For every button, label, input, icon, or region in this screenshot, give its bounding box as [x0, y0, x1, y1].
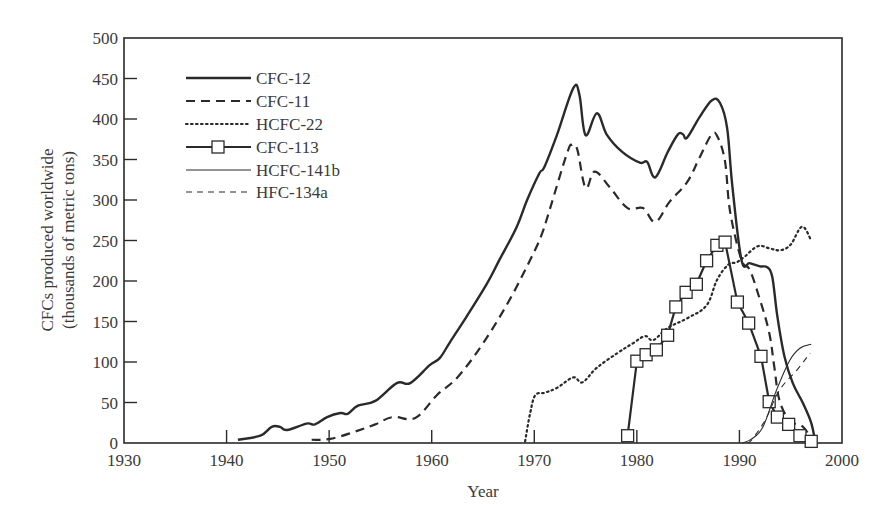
x-tick-label: 1930 [107, 451, 141, 470]
y-tick-label: 250 [93, 232, 119, 251]
square-marker [794, 430, 806, 442]
square-marker [743, 317, 755, 329]
x-tick-label: 1980 [620, 451, 654, 470]
legend-label: CFC-113 [256, 138, 319, 157]
chart-canvas: 050100150200250300350400450500 193019401… [0, 0, 887, 523]
y-tick-label: 400 [93, 110, 119, 129]
legend-item-cfc-11: CFC-11 [186, 92, 310, 111]
legend-item-hcfc-22: HCFC-22 [186, 115, 323, 134]
x-axis: 19301940195019601970198019902000 [107, 430, 859, 470]
square-marker [805, 435, 817, 447]
x-tick-label: 1990 [722, 451, 756, 470]
square-marker [771, 411, 783, 423]
legend-item-hfc-134a: HFC-134a [186, 183, 328, 202]
legend-label: HFC-134a [256, 183, 328, 202]
y-axis-title: CFCs produced worldwide (thousands of me… [38, 148, 78, 331]
square-marker [701, 255, 713, 267]
y-tick-label: 300 [93, 191, 119, 210]
series-cfc-113 [622, 236, 818, 447]
square-marker [650, 344, 662, 356]
series-cfc-11 [312, 132, 811, 439]
square-marker [670, 301, 682, 313]
y-tick-label: 50 [101, 394, 118, 413]
legend-label: CFC-11 [256, 92, 310, 111]
y-tick-label: 100 [93, 353, 119, 372]
square-marker [622, 430, 634, 442]
legend-label: HCFC-141b [256, 161, 340, 180]
series-line-cfc-11 [312, 132, 811, 439]
y-tick-label: 150 [93, 313, 119, 332]
x-tick-label: 1970 [517, 451, 551, 470]
x-tick-label: 2000 [825, 451, 859, 470]
y-axis-title-line-1: CFCs produced worldwide [38, 148, 57, 331]
y-tick-label: 350 [93, 151, 119, 170]
y-axis: 050100150200250300350400450500 [93, 29, 138, 453]
y-tick-label: 450 [93, 70, 119, 89]
x-tick-label: 1960 [415, 451, 449, 470]
square-marker [755, 350, 767, 362]
square-marker [690, 278, 702, 290]
legend-item-hcfc-141b: HCFC-141b [186, 161, 340, 180]
x-axis-title: Year [467, 482, 499, 501]
square-marker [731, 296, 743, 308]
square-marker [719, 236, 731, 248]
x-tick-label: 1940 [210, 451, 244, 470]
y-tick-label: 500 [93, 29, 119, 48]
plot-border [124, 38, 842, 443]
legend-item-cfc-113: CFC-113 [186, 138, 319, 157]
square-marker-icon [212, 141, 224, 153]
y-axis-title-line-2: (thousands of metric tons) [59, 151, 78, 329]
legend: CFC-12CFC-11HCFC-22CFC-113HCFC-141bHFC-1… [186, 69, 340, 202]
y-tick-label: 200 [93, 272, 119, 291]
legend-label: CFC-12 [256, 69, 311, 88]
plot-series [238, 85, 817, 448]
x-tick-label: 1950 [312, 451, 346, 470]
plot-frame [124, 38, 842, 443]
square-marker [662, 329, 674, 341]
cfc-production-chart: 050100150200250300350400450500 193019401… [0, 0, 887, 523]
legend-label: HCFC-22 [256, 115, 323, 134]
square-marker [783, 418, 795, 430]
legend-item-cfc-12: CFC-12 [186, 69, 311, 88]
